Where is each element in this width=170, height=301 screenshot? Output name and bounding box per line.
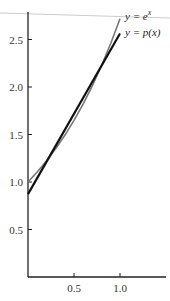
p-line (28, 34, 120, 195)
y-tick-label: 2.5 (9, 34, 23, 46)
x-tick-label: 0.5 (67, 282, 81, 294)
x-tick-label: 1.0 (113, 282, 127, 294)
y-tick-label: 1.0 (9, 176, 23, 188)
chart: 0.51.00.51.01.52.02.5 y = exy = p(x) (0, 0, 170, 301)
y-tick-label: 2.0 (9, 81, 23, 93)
y-tick-label: 1.5 (9, 129, 23, 141)
legend-p: y = p(x) (124, 26, 161, 39)
y-tick-label: 0.5 (9, 224, 23, 236)
legend-exp: y = ex (124, 8, 152, 22)
exp-curve (28, 19, 120, 182)
